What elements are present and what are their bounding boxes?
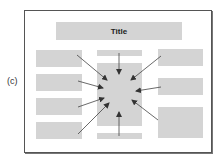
left-box-4: [36, 122, 82, 139]
center-top-bar: [97, 50, 142, 56]
title-bar: Title: [56, 22, 182, 40]
left-box-1: [36, 50, 82, 67]
left-box-2: [36, 74, 82, 91]
right-box-3: [158, 107, 203, 138]
center-bottom-bar: [97, 133, 142, 139]
center-box: [97, 63, 142, 126]
panel-label: (c): [7, 76, 18, 86]
left-box-3: [36, 98, 82, 115]
title-text: Title: [111, 27, 127, 36]
right-box-2: [158, 78, 203, 95]
right-box-1: [158, 49, 203, 66]
